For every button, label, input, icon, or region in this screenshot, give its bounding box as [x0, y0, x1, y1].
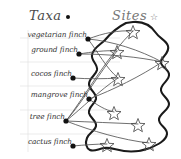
site-star-s4	[111, 73, 125, 86]
taxon-label-mangrove: mangrove finch	[0, 90, 88, 99]
taxon-label-cocos: cocos finch	[0, 69, 72, 78]
network-map-svg	[0, 0, 181, 159]
site-star-s6	[131, 119, 145, 132]
figure-canvas: Taxa Sites☆ vegetarian finch ground finc…	[0, 0, 181, 159]
taxon-label-ground: ground finch	[0, 45, 78, 54]
taxon-label-tree: tree finch	[0, 112, 65, 121]
taxon-label-vegetarian: vegetarian finch	[0, 30, 87, 39]
taxon-label-cactus: cactus finch	[0, 137, 72, 146]
site-star-s7	[100, 139, 114, 152]
taxa-title-text: Taxa	[29, 8, 62, 23]
sites-title-text: Sites	[112, 8, 147, 23]
site-star-s1	[126, 26, 140, 39]
open-star-icon: ☆	[150, 12, 159, 22]
sites-column-title: Sites☆	[112, 8, 159, 23]
filled-circle-icon	[66, 15, 70, 19]
site-star-markers	[100, 26, 169, 152]
taxa-column-title: Taxa	[29, 8, 70, 23]
site-star-s5	[107, 107, 121, 120]
taxon-site-link-lines	[66, 31, 162, 146]
